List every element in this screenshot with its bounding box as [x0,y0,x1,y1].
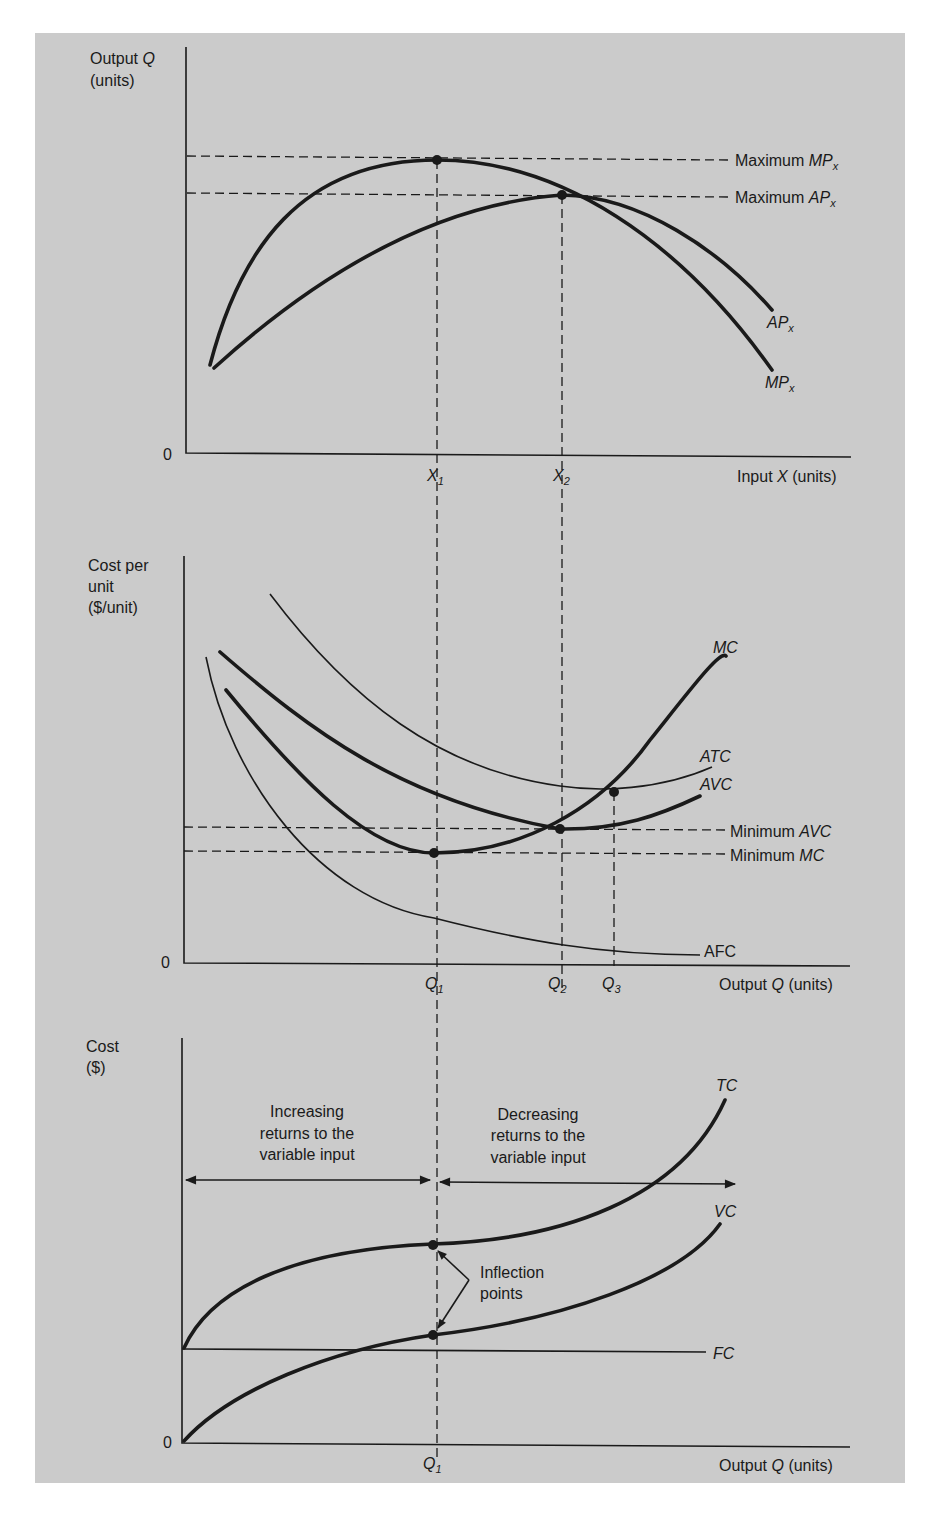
y-axis-unit: ($) [86,1059,106,1076]
origin-label: 0 [161,954,170,971]
production-chart: Output Q (units) 0 Maximum MPx Maximum A… [90,47,851,1460]
q2-tick-label: Q2 [548,975,567,995]
increasing-label-2: returns to the [260,1125,354,1142]
min-avc-guide [184,827,726,830]
ap-curve [214,195,772,368]
cost-production-diagram: Output Q (units) 0 Maximum MPx Maximum A… [0,0,940,1524]
x2-tick-label: X2 [552,467,570,487]
mp-label: MPx [765,374,795,394]
max-ap-point [557,190,567,200]
q1-tick-label: Q1 [423,1455,442,1475]
fc-label: FC [713,1345,735,1362]
inflection-arrow-lower [438,1280,469,1328]
atc-label: ATC [699,748,731,765]
y-axis-label: Cost [86,1038,119,1055]
y-axis-unit: (units) [90,72,134,89]
increasing-label-1: Increasing [270,1103,344,1120]
axes [184,556,850,966]
y-axis-label-2: unit [88,578,114,595]
ap-label: APx [766,314,794,334]
min-atc-point [609,787,619,797]
origin-label: 0 [163,1434,172,1451]
min-avc-point [555,824,565,834]
min-mc-label: Minimum MC [730,847,825,864]
x-axis-label: Output Q (units) [719,1457,833,1474]
vc-inflection-point [428,1330,438,1340]
vc-label: VC [714,1203,737,1220]
inflection-arrow-upper [438,1251,469,1280]
y-axis-unit: ($/unit) [88,599,138,616]
decreasing-label-1: Decreasing [498,1106,579,1123]
q1-tick-label: Q1 [425,975,444,995]
avc-label: AVC [699,776,732,793]
increasing-label-3: variable input [259,1146,355,1163]
vc-curve [184,1224,720,1441]
fc-line [182,1349,706,1352]
total-cost-chart: Cost ($) 0 Increasing returns to the var… [86,1038,850,1475]
afc-label: AFC [704,943,736,960]
tc-inflection-point [428,1240,438,1250]
mc-label: MC [713,639,738,656]
max-ap-guide [187,193,728,197]
decreasing-label-2: returns to the [491,1127,585,1144]
mc-curve [226,655,726,853]
tc-label: TC [716,1077,738,1094]
x-axis-label: Input X (units) [737,468,837,485]
q3-tick-label: Q3 [602,975,621,995]
avc-curve [220,652,700,829]
decreasing-label-3: variable input [490,1149,586,1166]
inflection-label-1: Inflection [480,1264,544,1281]
x-axis-label: Output Q (units) [719,976,833,993]
min-avc-label: Minimum AVC [730,823,832,840]
max-ap-label: Maximum APx [735,189,836,209]
min-mc-point [429,848,439,858]
x1-tick-label: X1 [426,467,444,487]
origin-label: 0 [163,446,172,463]
max-mp-point [432,155,442,165]
y-axis-label: Cost per [88,557,149,574]
y-axis-label: Output Q [90,50,155,67]
inflection-label-2: points [480,1285,523,1302]
decreasing-returns-arrow [440,1182,735,1184]
axes [186,47,851,457]
mp-curve [210,160,772,370]
max-mp-label: Maximum MPx [735,152,839,172]
axes [182,1038,850,1447]
atc-curve [270,594,712,789]
unit-cost-chart: Cost per unit ($/unit) 0 MC ATC AVC AFC … [88,556,850,995]
